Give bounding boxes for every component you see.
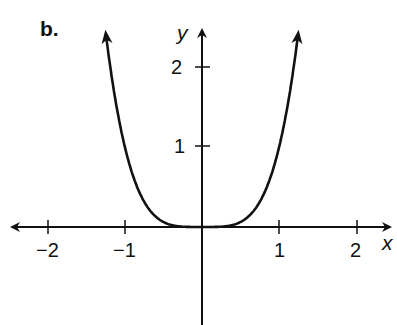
panel-label: b. [40, 18, 59, 39]
x-tick-label-neg1: −1 [113, 240, 136, 260]
x-tick-label-2: 2 [350, 240, 361, 260]
y-axis-label: y [177, 22, 188, 43]
y-tick-label-2: 2 [171, 57, 182, 77]
chart-canvas [0, 0, 397, 325]
x-tick-label-1: 1 [274, 240, 285, 260]
y-tick-label-1: 1 [174, 136, 185, 156]
x-axis-label: x [382, 232, 393, 253]
x-tick-label-neg2: −2 [36, 240, 59, 260]
